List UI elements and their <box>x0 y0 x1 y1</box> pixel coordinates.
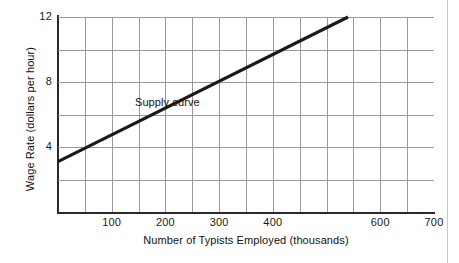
x-tick-label-400: 400 <box>253 216 293 228</box>
plot-area <box>58 17 434 212</box>
x-tick-label-600: 600 <box>360 216 400 228</box>
supply-curve-line <box>58 17 348 162</box>
x-axis-title: Number of Typists Employed (thousands) <box>58 234 434 246</box>
x-tick-label-300: 300 <box>199 216 239 228</box>
x-axis-spine <box>57 212 435 214</box>
supply-curve-annotation: Supply curve <box>135 96 200 108</box>
curve-layer <box>58 17 434 212</box>
x-tick-label-700: 700 <box>414 216 454 228</box>
supply-curve-figure: 100200300400600700 4812 Supply curve Num… <box>0 0 459 263</box>
y-axis-title: Wage Rate (dollars per hour) <box>24 19 36 219</box>
x-tick-label-200: 200 <box>145 216 185 228</box>
x-tick-label-100: 100 <box>92 216 132 228</box>
